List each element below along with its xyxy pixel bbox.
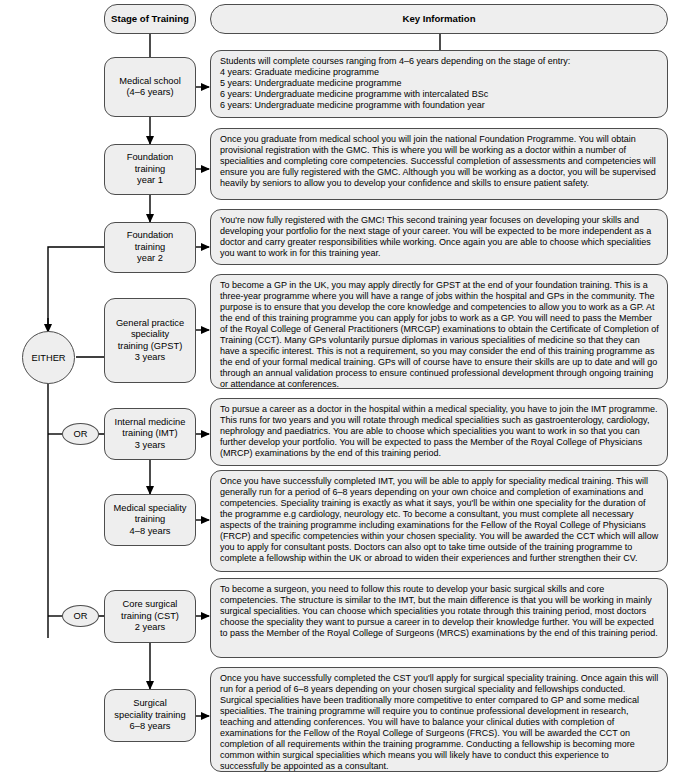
flowchart-canvas: Stage of Training Key Information Medica… [0,0,673,774]
stage-cst-label: Core surgical training (CST) 2 years [121,599,179,633]
stage-imt-label: Internal medicine training (IMT) 3 years [115,417,186,451]
stage-gpst-label: General practice speciality training (GP… [116,318,184,364]
stage-foundation-year-1-label: Foundation training year 1 [127,152,174,186]
stage-cst[interactable]: Core surgical training (CST) 2 years [104,590,196,643]
stage-imt[interactable]: Internal medicine training (IMT) 3 years [104,408,196,460]
info-panel-surgical-speciality-training-text: Once you have successfully completed the… [220,673,659,772]
info-panel-medical-school: Students will complete courses ranging f… [210,50,668,118]
info-panel-medical-speciality-training-text: Once you have successfully completed IMT… [220,476,659,564]
header-stage-of-training-label: Stage of Training [111,13,189,24]
info-panel-medical-school-text: Students will complete courses ranging f… [220,56,659,111]
stage-medical-speciality-training[interactable]: Medical speciality training 4–8 years [104,494,196,546]
branch-node-or-1-label: OR [74,429,88,439]
info-panel-medical-speciality-training: Once you have successfully completed IMT… [210,470,668,572]
header-stage-of-training: Stage of Training [104,4,196,34]
branch-node-either-label: EITHER [31,353,65,363]
stage-foundation-year-1[interactable]: Foundation training year 1 [104,144,196,195]
info-panel-imt-text: To pursue a career as a doctor in the ho… [220,404,659,459]
header-key-information-label: Key Information [402,13,475,24]
stage-surgical-speciality-training-label: Surgical speciality training 6–8 years [114,698,185,732]
info-panel-foundation-year-1: Once you graduate from medical school yo… [210,128,668,200]
stage-medical-speciality-training-label: Medical speciality training 4–8 years [114,503,187,537]
stage-medical-school[interactable]: Medical school (4–6 years) [104,57,196,117]
branch-node-or-1[interactable]: OR [62,423,99,445]
info-panel-cst: To become a surgeon, you need to follow … [210,578,668,658]
stage-medical-school-label: Medical school (4–6 years) [119,76,181,99]
info-panel-foundation-year-2-text: You're now fully registered with the GMC… [220,215,659,259]
info-panel-gpst-text: To become a GP in the UK, you may apply … [220,280,659,390]
info-panel-cst-text: To become a surgeon, you need to follow … [220,584,659,639]
branch-node-or-2[interactable]: OR [62,605,99,627]
branch-node-either[interactable]: EITHER [22,331,75,384]
stage-gpst[interactable]: General practice speciality training (GP… [104,298,196,383]
info-panel-imt: To pursue a career as a doctor in the ho… [210,398,668,466]
info-panel-foundation-year-1-text: Once you graduate from medical school yo… [220,134,659,189]
stage-foundation-year-2-label: Foundation training year 2 [127,230,174,264]
stage-surgical-speciality-training[interactable]: Surgical speciality training 6–8 years [104,689,196,742]
line-fy2-to-either-spine [48,247,104,330]
header-key-information: Key Information [210,4,668,34]
info-panel-gpst: To become a GP in the UK, you may apply … [210,274,668,389]
info-panel-surgical-speciality-training: Once you have successfully completed the… [210,667,668,772]
info-panel-foundation-year-2: You're now fully registered with the GMC… [210,209,668,265]
branch-node-or-2-label: OR [74,611,88,621]
stage-foundation-year-2[interactable]: Foundation training year 2 [104,222,196,273]
